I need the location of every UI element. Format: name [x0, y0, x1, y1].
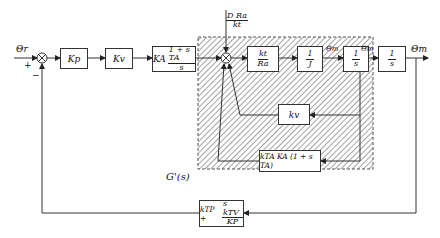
- sum1-plus-sign: +: [24, 61, 32, 70]
- block-kt-over-ra: ktRa: [247, 46, 279, 72]
- sum1-minus-sign: −: [32, 71, 40, 80]
- summing-junction-1: [37, 53, 47, 63]
- block-kv-feedback: kv: [278, 104, 310, 125]
- block-kp: Kp: [60, 48, 88, 69]
- velocity-signal-label: Θ̇m: [361, 46, 373, 53]
- summing-junction-2: [221, 53, 231, 63]
- block-kv: Kv: [105, 48, 133, 69]
- input-label: Θr: [16, 45, 28, 54]
- block-ka: KA 1 + s TAs: [152, 46, 196, 72]
- disturbance-label: D Rakt: [226, 11, 248, 30]
- output-label: Θm: [411, 45, 427, 54]
- block-integrator-2: 1s: [378, 46, 406, 72]
- inner-loop-label: G'(s): [166, 172, 190, 182]
- block-inverse-j: 1J: [297, 46, 323, 72]
- accel-signal-label: Θ̈m: [326, 46, 338, 53]
- block-tacho-feedback: kTA KA (1 + s TA): [259, 150, 321, 172]
- block-position-feedback: kTP + s kTVKP: [199, 200, 244, 227]
